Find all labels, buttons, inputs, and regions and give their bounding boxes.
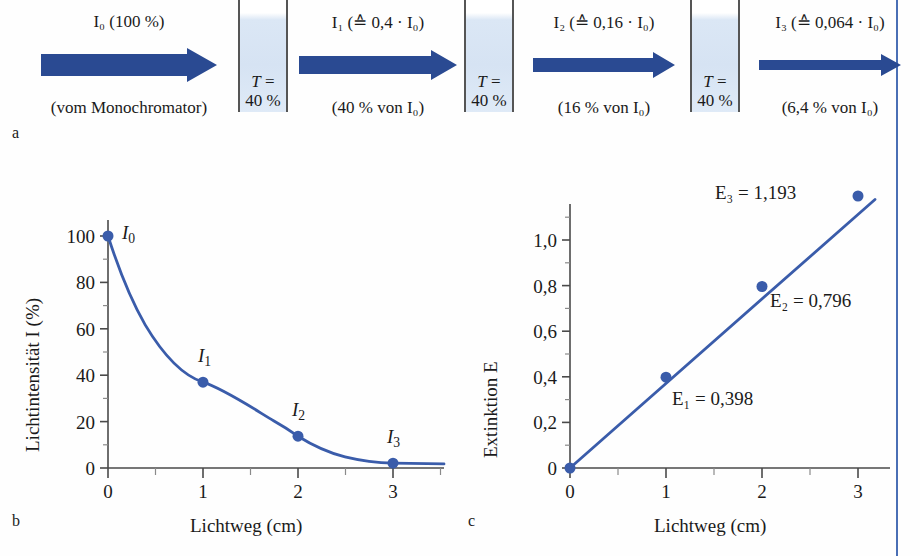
chart-b-xtick-0: 0 [103,481,113,502]
panel-b-chart: 0 20 40 60 80 100 0 1 2 3 [0,190,450,556]
chart-b-point-I3 [388,458,399,469]
chart-c-ytick-08: 0,8 [533,276,557,297]
chart-b-y-ticks [100,236,108,468]
panel-a-beam-diagram: I₀ (100 %) (vom Monochromator) T = 40 % … [0,0,920,150]
cuvette-1-value: 40 % [245,91,280,110]
beam-label-top-1: I₁ (≙ 0,4 · I₀) [292,12,464,33]
beam-arrow-3 [744,54,916,76]
chart-b-label-I1: I1 [197,345,211,369]
chart-c-point-E0 [565,463,576,474]
chart-c-ytick-10: 1,0 [533,230,557,251]
chart-b-xtick-2: 2 [293,481,303,502]
cuvette-1-symbol: T [251,72,260,91]
chart-b-point-I0 [103,231,114,242]
chart-b-ytick-60: 60 [76,319,95,340]
chart-c-xtick-1: 1 [661,481,671,502]
chart-b-point-I2 [293,431,304,442]
cuvette-1-equals: = [265,72,275,91]
chart-b-xlabel: Lichtweg (cm) [190,515,302,537]
chart-c-label-E1: E₁ = 0,398 [672,388,753,410]
chart-b-ytick-80: 80 [76,272,95,293]
chart-b-ytick-40: 40 [76,365,95,386]
cuvette-3-transmission: T = 40 % [692,73,738,110]
beam-stage-3: I₃ (≙ 0,064 · I₀) (6,4 % von I₀) [744,12,916,118]
cuvette-3-equals: = [717,72,727,91]
chart-c-line [570,200,875,469]
beam-label-top-0: I₀ (100 %) [22,12,236,32]
chart-b-xtick-1: 1 [198,481,208,502]
panel-c-chart: 0 0,2 0,4 0,6 0,8 1,0 0 1 2 3 [450,190,920,556]
beam-label-bottom-1: (40 % von I₀) [292,98,464,118]
chart-b-xtick-3: 3 [388,481,398,502]
chart-c-ytick-04: 0,4 [533,367,557,388]
cuvette-2-transmission: T = 40 % [466,73,512,110]
cuvette-3: T = 40 % [690,0,740,112]
chart-c-xtick-0: 0 [565,481,575,502]
cuvette-1: T = 40 % [238,0,288,112]
cuvette-3-value: 40 % [697,91,732,110]
chart-b-ytick-100: 100 [67,226,96,247]
beam-label-bottom-3: (6,4 % von I₀) [744,98,916,118]
panel-letter-c: c [468,512,475,530]
chart-b-ytick-0: 0 [86,458,96,479]
chart-b-ylabel: Lichtintensität I (%) [22,298,44,452]
beam-stage-1: I₁ (≙ 0,4 · I₀) (40 % von I₀) [292,12,464,118]
cuvette-1-transmission: T = 40 % [240,73,286,110]
chart-c-xtick-3: 3 [853,481,863,502]
panel-letter-b: b [12,512,20,530]
chart-c-label-E3: E₃ = 1,193 [715,182,796,204]
chart-c-xlabel: Lichtweg (cm) [654,515,766,537]
chart-c-point-E1 [661,372,672,383]
chart-b-svg: 0 20 40 60 80 100 0 1 2 3 [0,190,450,556]
beam-arrow-1 [292,50,464,80]
chart-b-x-ticks [108,468,441,478]
cuvette-3-symbol: T [703,72,712,91]
cuvette-2-equals: = [491,72,501,91]
beam-label-bottom-2: (16 % von I₀) [518,98,690,118]
beam-label-bottom-0: (vom Monochromator) [22,98,236,118]
chart-b-point-I1 [198,377,209,388]
chart-c-ytick-02: 0,2 [533,412,557,433]
beam-arrow-0 [22,48,236,82]
figure-root: I₀ (100 %) (vom Monochromator) T = 40 % … [0,0,920,556]
beam-label-top-3: I₃ (≙ 0,064 · I₀) [744,12,916,33]
chart-c-y-ticks [562,217,570,468]
chart-c-xtick-2: 2 [757,481,767,502]
beam-stage-2: I₂ (≙ 0,16 · I₀) (16 % von I₀) [518,12,690,118]
cuvette-2-symbol: T [477,72,486,91]
chart-c-point-E2 [757,281,768,292]
chart-c-label-E2: E₂ = 0,796 [770,290,851,312]
chart-b-label-I0: I0 [121,222,135,246]
chart-b-ytick-20: 20 [76,412,95,433]
chart-b-curve [108,236,444,464]
chart-c-ylabel: Extinktion E [480,361,502,458]
cuvette-2: T = 40 % [464,0,514,112]
chart-c-point-E3 [853,191,864,202]
panel-letter-a: a [12,124,19,142]
chart-c-svg: 0 0,2 0,4 0,6 0,8 1,0 0 1 2 3 [450,190,920,556]
cuvette-2-value: 40 % [471,91,506,110]
beam-arrow-2 [518,52,690,78]
chart-b-label-I2: I2 [291,399,305,423]
beam-stage-0: I₀ (100 %) (vom Monochromator) [22,12,236,118]
chart-c-ytick-0: 0 [548,458,558,479]
chart-c-x-ticks [570,468,858,478]
beam-label-top-2: I₂ (≙ 0,16 · I₀) [518,12,690,33]
chart-b-label-I3: I3 [386,426,400,450]
chart-c-ytick-06: 0,6 [533,321,557,342]
